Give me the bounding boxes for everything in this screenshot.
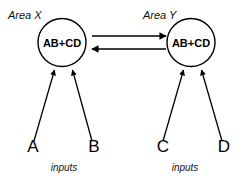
- area-y-inputs-caption: inputs: [172, 162, 199, 173]
- edge-d-to-area-y: [202, 70, 223, 141]
- edge-c-to-area-y: [163, 70, 184, 141]
- area-x-inputs-caption: inputs: [51, 162, 78, 173]
- input-letter-b: B: [88, 137, 99, 156]
- diagram-canvas: Area X AB+CD A B inputs Area Y AB+CD C D…: [0, 0, 242, 178]
- edge-b-to-area-x: [73, 70, 93, 141]
- edge-a-to-area-x: [34, 70, 55, 141]
- diagram-svg: Area X AB+CD A B inputs Area Y AB+CD C D…: [0, 0, 242, 178]
- input-letter-d: D: [218, 137, 230, 156]
- input-letter-a: A: [27, 137, 39, 156]
- area-y-node-label: AB+CD: [172, 37, 210, 49]
- area-x-label: Area X: [7, 9, 42, 21]
- area-x-node-label: AB+CD: [43, 37, 81, 49]
- area-y-label: Area Y: [142, 9, 177, 21]
- input-letter-c: C: [157, 137, 169, 156]
